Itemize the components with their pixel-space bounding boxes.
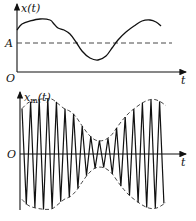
envelope-upper	[22, 99, 166, 141]
modulation-diagram: x(t) A O t xm(t) O t	[0, 0, 196, 221]
top-y-label: x(t)	[21, 2, 40, 15]
signal-curve	[17, 19, 161, 60]
bottom-y-label: xm(t)	[24, 91, 51, 105]
top-x-label: t	[181, 74, 186, 87]
bottom-x-label: t	[181, 156, 186, 169]
bottom-origin-label: O	[7, 148, 16, 161]
top-origin-label: O	[6, 72, 15, 85]
level-label: A	[4, 37, 13, 50]
bottom-plot: xm(t) O t	[7, 91, 186, 210]
top-plot: x(t) A O t	[4, 2, 186, 87]
